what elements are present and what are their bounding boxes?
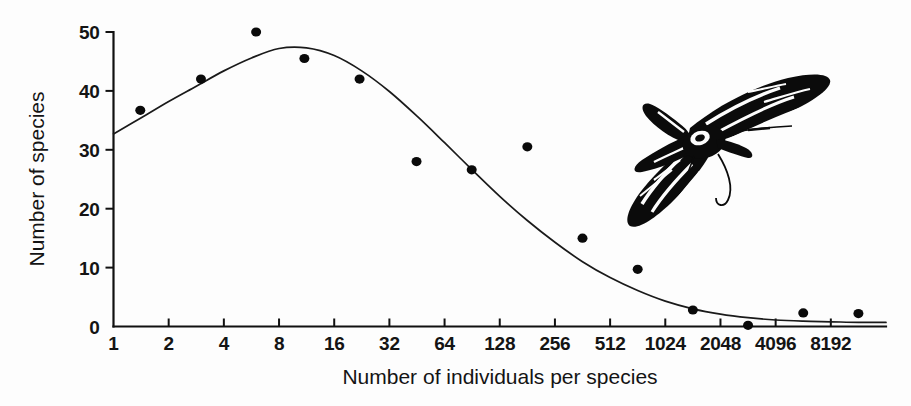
data-point: [633, 265, 643, 274]
data-point: [412, 157, 422, 166]
x-tick-label: 32: [379, 333, 400, 354]
x-tick-label: 64: [434, 333, 455, 354]
moth-illustration: [627, 74, 830, 226]
data-point: [853, 309, 863, 318]
data-point: [688, 305, 698, 314]
data-point: [196, 75, 206, 84]
data-point: [467, 165, 477, 174]
data-point-group: [135, 27, 863, 330]
data-point: [299, 54, 309, 63]
y-tick-label: 20: [79, 199, 100, 220]
y-axis-ticks: [106, 32, 114, 268]
x-tick-label: 512: [595, 333, 626, 354]
y-tick-label: 50: [79, 22, 100, 43]
x-axis-ticks: [169, 319, 831, 327]
x-tick-label: 256: [540, 333, 571, 354]
y-tick-label: 30: [79, 140, 100, 161]
x-tick-label: 2: [164, 333, 174, 354]
data-point: [743, 321, 753, 330]
x-tick-label: 1024: [645, 333, 687, 354]
data-point: [522, 142, 532, 151]
data-point: [251, 27, 261, 36]
y-axis-title: Number of species: [25, 91, 48, 266]
data-point: [355, 75, 365, 84]
x-axis-title: Number of individuals per species: [342, 365, 657, 388]
x-tick-label: 8: [274, 333, 284, 354]
y-axis-tick-labels: 01020304050: [79, 22, 100, 338]
species-abundance-chart: 01020304050 1248163264128256512102420484…: [0, 0, 911, 406]
y-tick-label: 40: [79, 81, 100, 102]
x-tick-label: 4: [219, 333, 230, 354]
y-tick-label: 10: [79, 258, 100, 279]
x-tick-label: 2048: [700, 333, 741, 354]
chart-axes: [106, 32, 887, 327]
data-point: [578, 234, 588, 243]
x-tick-label: 1: [108, 333, 119, 354]
x-tick-label: 16: [324, 333, 345, 354]
data-point: [135, 106, 145, 115]
chart-figure: 01020304050 1248163264128256512102420484…: [0, 0, 911, 406]
data-point: [798, 308, 808, 317]
x-axis-tick-labels: 12481632641282565121024204840968192: [108, 333, 851, 354]
x-tick-label: 8192: [810, 333, 851, 354]
y-tick-label: 0: [89, 317, 99, 338]
x-tick-label: 4096: [755, 333, 796, 354]
x-tick-label: 128: [484, 333, 515, 354]
